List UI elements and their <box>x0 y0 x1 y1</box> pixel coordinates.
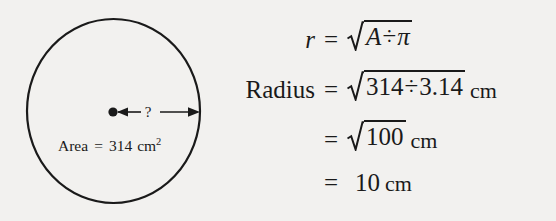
area-label-name: Area <box>58 137 88 154</box>
equation-row-1-lhs: r <box>228 27 315 52</box>
equation-row-4-value: 10 <box>355 169 380 196</box>
radicand-3-term-1: 100 <box>366 123 404 150</box>
equation-row-4-rhs: 10cm <box>347 170 412 195</box>
radicand-1-operator: ÷ <box>381 23 397 50</box>
equation-row-3-equals: = <box>315 127 347 152</box>
radicand-1-term-1: A <box>366 23 381 50</box>
radical-3: 100 <box>347 119 406 149</box>
equation-row-1: r = A÷π <box>228 18 556 52</box>
equation-stack: r = A÷π Radius = <box>228 0 556 221</box>
equation-row-2-lhs: Radius <box>228 77 315 102</box>
equation-row-3: = 100 cm <box>228 118 556 152</box>
radical-2: 314÷3.14 <box>347 69 465 99</box>
radicand-2-term-2: 3.14 <box>419 73 463 100</box>
radical-sign-icon <box>347 71 364 101</box>
radical-sign-icon <box>347 121 364 151</box>
area-label: Area=314cm2 <box>58 136 161 154</box>
center-point-dot <box>108 107 117 116</box>
radicand-1: A÷π <box>364 20 412 50</box>
radius-arrow <box>117 107 200 117</box>
equation-row-1-rhs: A÷π <box>347 18 412 52</box>
radicand-3: 100 <box>364 120 406 150</box>
equation-row-3-unit: cm <box>411 128 438 153</box>
radicand-2-operator: ÷ <box>404 73 420 100</box>
svg-text:Area=314cm2: Area=314cm2 <box>58 136 161 154</box>
radicand-2: 314÷3.14 <box>364 70 465 100</box>
radicand-1-term-2: π <box>397 23 410 50</box>
equation-row-4-unit: cm <box>385 171 412 196</box>
equation-row-3-rhs: 100 cm <box>347 118 437 152</box>
equation-row-2-equals: = <box>315 77 347 102</box>
equation-row-2-unit: cm <box>470 78 497 103</box>
equation-row-4: = 10cm <box>228 170 556 195</box>
worksheet-figure: ? Area=314cm2 r = <box>0 0 556 221</box>
radius-question-label: ? <box>145 104 152 120</box>
radical-1: A÷π <box>347 19 412 49</box>
area-label-unit: cm <box>137 137 156 154</box>
equation-row-2-rhs: 314÷3.14 cm <box>347 68 497 102</box>
area-label-value: 314 <box>109 137 133 154</box>
radical-sign-icon <box>347 21 364 51</box>
area-label-exponent: 2 <box>156 136 161 147</box>
equation-row-1-equals: = <box>315 27 347 52</box>
equation-row-2: Radius = 314÷3.14 cm <box>228 68 556 102</box>
radicand-2-term-1: 314 <box>366 73 404 100</box>
circle-diagram: ? Area=314cm2 <box>0 0 228 221</box>
area-label-equals: = <box>94 137 103 154</box>
equation-row-4-equals: = <box>315 170 347 195</box>
